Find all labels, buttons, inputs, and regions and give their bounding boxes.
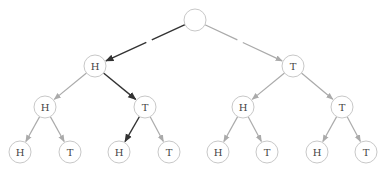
edge-HH-to-HHT [50,117,64,142]
edge-T-to-TT [301,73,332,99]
edge-HT-to-HTH [125,117,139,142]
node-label: H [313,147,322,158]
node-label: T [142,102,149,113]
edge-root-to-H [106,25,185,61]
node-layer: HTHTHTHTHTHTHT [9,9,377,163]
tree-canvas: HTHTHTHTHTHTHT [0,0,386,170]
edge-HH-to-HHH [26,117,40,142]
tree-node-TTH: H [306,141,328,163]
node-label: T [339,102,346,113]
edge-TH-to-THT [248,117,261,142]
tree-node-HH: H [34,96,56,118]
tree-node-TTT: T [355,141,377,163]
tree-node-TH: H [232,96,254,118]
node-label: T [264,147,271,158]
tree-node-THH: H [207,141,229,163]
node-label: H [16,147,25,158]
edge-TT-to-TTT [347,117,360,142]
tree-node-root [184,9,206,31]
edge-TH-to-THH [224,117,238,142]
edge-HT-to-HTT [150,117,163,142]
tree-node-HTH: H [108,141,130,163]
edge-layer [26,25,361,142]
edge-H-to-HH [54,73,86,99]
node-circle [184,9,206,31]
node-label: H [91,61,100,72]
tree-node-THT: T [256,141,278,163]
tree-node-H: H [84,55,106,77]
edge-root-to-T [205,25,282,61]
tree-node-HTT: T [158,141,180,163]
probability-tree-diagram: HTHTHTHTHTHTHT [0,0,386,170]
edge-T-to-TH [252,73,284,99]
node-label: H [115,147,124,158]
tree-node-T: T [282,55,304,77]
node-label: H [239,102,248,113]
tree-node-TT: T [331,96,353,118]
node-label: T [290,61,297,72]
node-label: H [214,147,223,158]
tree-node-HHT: T [59,141,81,163]
node-label: T [166,147,173,158]
edge-TT-to-TTH [323,117,337,142]
node-label: H [41,102,50,113]
edge-H-to-HT [104,73,136,99]
tree-node-HT: T [134,96,156,118]
tree-node-HHH: H [9,141,31,163]
node-label: T [67,147,74,158]
node-label: T [363,147,370,158]
